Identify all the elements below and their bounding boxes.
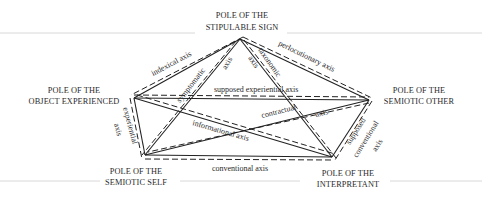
label-taxonomic-axis: axis — [246, 54, 261, 70]
pole-stipulable-sign: POLE OF THE STIPULABLE SIGN — [206, 11, 279, 32]
svg-text:POLE OF THE: POLE OF THE — [393, 86, 446, 95]
svg-text:STIPULABLE SIGN: STIPULABLE SIGN — [206, 23, 279, 32]
pole-object-experienced: POLE OF THE OBJECT EXPERIENCED — [29, 86, 120, 106]
semiotic-pentagon-diagram: POLE OF THE STIPULABLE SIGN POLE OF THE … — [0, 0, 482, 200]
svg-text:SEMIOTIC OTHER: SEMIOTIC OTHER — [384, 97, 455, 106]
pole-semiotic-other: POLE OF THE SEMIOTIC OTHER — [384, 86, 455, 106]
svg-text:POLE OF THE: POLE OF THE — [110, 167, 163, 176]
label-contractual: contractual — [260, 102, 297, 120]
label-supposed-conventional-axis: axis — [370, 137, 384, 153]
label-conventional-axis: conventional axis — [212, 164, 268, 173]
svg-text:POLE OF THE: POLE OF THE — [322, 169, 375, 178]
label-perlocutionary-axis: perlocutionary axis — [277, 39, 336, 74]
label-supposed-experiential-axis: supposed experiential axis — [214, 85, 298, 94]
svg-text:POLE OF THE: POLE OF THE — [216, 11, 269, 20]
label-experiential-axis: axis — [112, 122, 124, 137]
svg-text:INTERPRETANT: INTERPRETANT — [317, 180, 379, 189]
label-informational-axis: informational axis — [191, 118, 250, 143]
svg-text:POLE OF THE: POLE OF THE — [48, 86, 101, 95]
label-indexical-axis: indexical axis — [150, 49, 193, 78]
svg-text:SEMIOTIC SELF: SEMIOTIC SELF — [105, 178, 167, 187]
label-contractual-axis: axis — [314, 107, 329, 119]
svg-text:OBJECT EXPERIENCED: OBJECT EXPERIENCED — [29, 97, 120, 106]
